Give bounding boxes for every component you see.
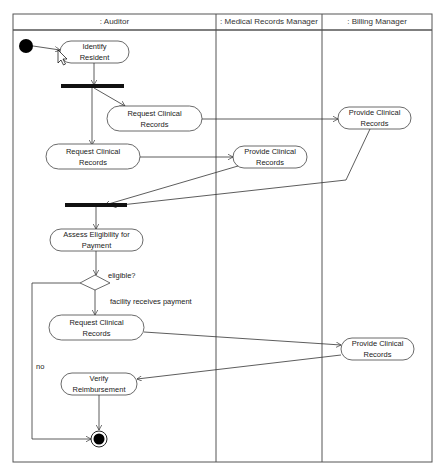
label-provide-records-billing-1: Provide Clinical Records — [338, 107, 411, 129]
label-provide-records-mrm: Provide Clinical Records — [233, 146, 307, 168]
label-request-records-3: Request Clinical Records — [49, 315, 144, 340]
label-provide-records-billing-2: Provide Clinical Records — [341, 338, 414, 360]
lane-header-auditor: : Auditor — [13, 16, 216, 28]
label-request-records-2: Request Clinical Records — [46, 144, 140, 169]
label-request-records-1: Request Clinical Records — [107, 106, 202, 131]
label-assess-eligibility: Assess Eligibility for Payment — [50, 229, 143, 251]
guard-no-label: no — [36, 361, 44, 373]
final-node — [91, 431, 107, 447]
decision-diamond — [80, 275, 110, 290]
lane-header-billing-manager: : Billing Manager — [322, 16, 432, 28]
guard-yes-label: facility receives payment — [110, 296, 192, 308]
fork-bar — [61, 84, 124, 88]
initial-node — [19, 39, 33, 53]
label-identify-resident: Identify Resident — [60, 41, 129, 63]
label-verify-reimbursement: Verify Reimbursement — [61, 373, 137, 395]
lane-header-medical-records-manager: : Medical Records Manager — [216, 16, 322, 28]
decision-label: eligible? — [108, 270, 136, 282]
join-bar — [65, 203, 127, 207]
